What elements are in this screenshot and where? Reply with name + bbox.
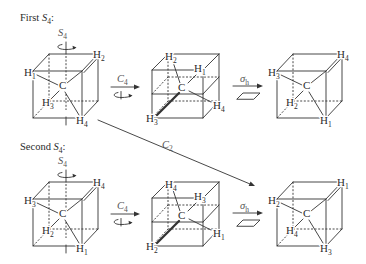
atom-h-right: H1 xyxy=(213,227,225,242)
atom-h-top-right: H3 xyxy=(194,190,206,205)
row-heading: First S4: xyxy=(20,12,54,26)
atom-h-back-top-left: H2 xyxy=(165,50,177,65)
atom-h-front-bottom-right: H1 xyxy=(76,242,88,257)
arrow-right-icon xyxy=(111,212,140,226)
atom-c: C xyxy=(59,79,66,91)
sigma-h-label: σh xyxy=(240,73,249,87)
atom-h-back-top-right: H1 xyxy=(337,176,349,191)
atom-h-back-top-right: H4 xyxy=(93,176,105,191)
c2-arrow-line xyxy=(98,120,250,184)
atom-c: C xyxy=(303,207,310,219)
arrow-right-icon xyxy=(111,85,140,99)
c2-label: C2 xyxy=(162,139,173,153)
mirror-plane-icon xyxy=(233,211,263,226)
atom-h-front-top-left: H3 xyxy=(24,194,36,209)
row-second-s4: Second S4: S4 H3 H4 C H2 H1 C4 H4 H3 C H… xyxy=(20,141,349,257)
c4-label: C4 xyxy=(117,73,128,87)
sigma-h-label: σh xyxy=(240,200,249,214)
c4-step-arrow: C4 xyxy=(111,200,140,226)
sigma-h-step-arrow: σh xyxy=(233,73,263,99)
atom-h-front-top-left: H1 xyxy=(24,66,36,81)
atom-h-front-bottom-right: H3 xyxy=(320,242,332,257)
atom-h-back-top-left: H4 xyxy=(165,178,177,193)
atom-h-back-top-right: H2 xyxy=(93,48,105,63)
atom-c: C xyxy=(178,81,185,93)
cube-frame xyxy=(152,182,219,246)
row-first-s4: First S4: S4 H1 H2 C H3 H4 C4 H2 H1 C H4… xyxy=(20,12,349,129)
s4-axis-label: S4 xyxy=(58,155,67,169)
atom-h-right: H4 xyxy=(213,99,225,114)
cube-after-sigma-h: H2 H1 C H4 H3 xyxy=(268,176,349,257)
atom-h-front-bottom-left: H3 xyxy=(146,112,158,127)
cube-initial: H3 H4 C H2 H1 xyxy=(24,176,105,257)
cube-frame xyxy=(152,54,219,118)
atom-c: C xyxy=(59,207,66,219)
atom-h-back-top-right: H4 xyxy=(337,48,349,63)
cube-after-c4: H4 H3 C H1 H2 xyxy=(146,178,225,255)
cube-after-c4: H2 H1 C H4 H3 xyxy=(146,50,225,127)
atom-c: C xyxy=(303,79,310,91)
atom-h-top-right: H1 xyxy=(194,62,206,77)
cube-initial: H1 H2 C H3 H4 xyxy=(24,48,105,129)
atom-h-front-top-left: H3 xyxy=(268,66,280,81)
row-heading: Second S4: xyxy=(20,141,66,155)
s4-axis-label: S4 xyxy=(58,27,67,41)
sigma-h-step-arrow: σh xyxy=(233,200,263,226)
atom-h-front-bottom-left: H2 xyxy=(146,240,158,255)
atom-h-front-bottom-right: H4 xyxy=(76,114,88,129)
c4-step-arrow: C4 xyxy=(111,73,140,99)
methane-s4-symmetry-diagram: First S4: S4 H1 H2 C H3 H4 C4 H2 H1 C H4… xyxy=(0,0,366,264)
atom-c: C xyxy=(178,209,185,221)
cube-after-sigma-h: H3 H4 C H2 H1 xyxy=(268,48,349,129)
atom-h-front-bottom-right: H1 xyxy=(320,114,332,129)
c4-label: C4 xyxy=(117,200,128,214)
atom-h-front-top-left: H2 xyxy=(268,194,280,209)
mirror-plane-icon xyxy=(233,84,263,99)
c2-cross-arrow: C2 xyxy=(98,120,255,186)
